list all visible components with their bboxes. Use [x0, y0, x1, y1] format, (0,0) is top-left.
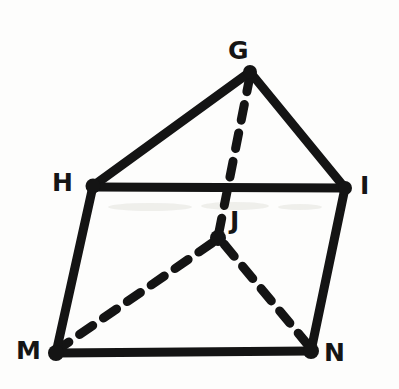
vertex-dot-H	[86, 179, 101, 194]
edge-M-N	[56, 351, 311, 353]
vertex-dot-N	[303, 343, 319, 359]
geometry-figure: G H I J M N	[0, 0, 399, 389]
edge-H-I	[93, 187, 345, 188]
vertex-label-N: N	[324, 340, 345, 365]
vertex-dot-J	[210, 230, 226, 246]
edge-I-N	[311, 188, 345, 351]
vertex-label-J: J	[230, 208, 239, 233]
scan-artifacts	[108, 202, 322, 211]
vertex-label-M: M	[16, 338, 41, 363]
edge-J-N	[224, 244, 308, 345]
visible-edges-group	[56, 72, 345, 353]
vertex-dot-I	[338, 181, 352, 195]
vertex-label-H: H	[52, 170, 73, 195]
edge-J-M	[63, 243, 212, 346]
edge-G-H	[93, 72, 250, 186]
vertex-dot-M	[48, 345, 64, 361]
vertex-dot-G	[243, 65, 257, 79]
vertex-label-I: I	[360, 173, 369, 198]
edge-G-I	[250, 72, 345, 188]
vertex-label-G: G	[228, 38, 249, 63]
